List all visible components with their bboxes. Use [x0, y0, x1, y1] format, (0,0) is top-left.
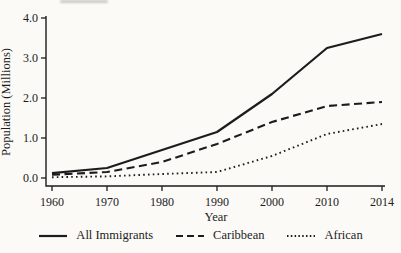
legend-label: African: [324, 227, 362, 244]
x-tick-label: 2014: [370, 195, 394, 209]
y-tick-label: 1.0: [23, 131, 38, 145]
population-line-chart: 0.01.02.03.04.0 196019701980199020002010…: [0, 0, 401, 253]
legend-swatch-dotted-line: [286, 231, 316, 241]
x-tick-label: 1980: [150, 195, 174, 209]
data-series: [52, 34, 382, 177]
y-tick-label: 4.0: [23, 11, 38, 25]
axis-lines: [46, 16, 385, 186]
x-tick-label: 1970: [95, 195, 119, 209]
series-line-caribbean: [52, 102, 382, 175]
legend-label: Caribbean: [213, 227, 264, 244]
y-tick-label: 3.0: [23, 51, 38, 65]
y-axis-ticks: 0.01.02.03.04.0: [23, 11, 46, 185]
legend-swatch-dashed-line: [175, 231, 205, 241]
legend-item-all-immigrants: All Immigrants: [38, 227, 153, 244]
legend-swatch-solid-line: [38, 231, 68, 241]
x-axis-title: Year: [204, 210, 228, 224]
chart-legend: All ImmigrantsCaribbeanAfrican: [0, 227, 401, 244]
series-line-all-immigrants: [52, 34, 382, 173]
y-tick-label: 0.0: [23, 171, 38, 185]
legend-item-african: African: [286, 227, 362, 244]
x-tick-label: 1960: [40, 195, 64, 209]
x-tick-label: 2000: [260, 195, 284, 209]
y-axis-title: Population (Millions): [0, 48, 13, 156]
x-tick-label: 2010: [315, 195, 339, 209]
x-tick-label: 1990: [205, 195, 229, 209]
legend-item-caribbean: Caribbean: [175, 227, 264, 244]
black-immigrant-population-figure: 0.01.02.03.04.0 196019701980199020002010…: [0, 0, 401, 253]
axes: [46, 16, 385, 186]
legend-label: All Immigrants: [76, 227, 153, 244]
x-axis-ticks: 1960197019801990200020102014: [40, 186, 394, 209]
y-tick-label: 2.0: [23, 91, 38, 105]
